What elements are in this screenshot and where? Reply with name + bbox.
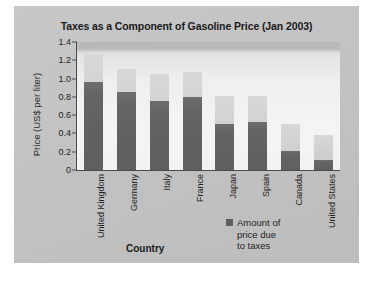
x-tick-label: Italy: [162, 174, 172, 248]
bar-segment-taxes: [281, 151, 300, 170]
x-tick-label: Canada: [294, 174, 304, 248]
x-tick-label: United Kingdom: [96, 174, 106, 248]
y-tick-label: 0.6: [43, 110, 71, 120]
y-tick-label: 1.2: [43, 55, 71, 65]
bar-segment-taxes: [183, 97, 202, 170]
chart-title: Taxes as a Component of Gasoline Price (…: [14, 20, 359, 32]
y-tick-label: 0.4: [43, 128, 71, 138]
bar-segment-taxes: [314, 160, 333, 170]
y-axis-title: Price (US$ per liter): [31, 45, 42, 185]
y-tick-label: 0.8: [43, 92, 71, 102]
legend-swatch-taxes: [226, 219, 233, 226]
legend-label-taxes: Amount of price due to taxes: [237, 217, 280, 252]
y-tick-label: 1.0: [43, 74, 71, 84]
x-tick-label: Germany: [129, 174, 139, 248]
chart-figure-panel: Taxes as a Component of Gasoline Price (…: [14, 6, 359, 263]
bar-segment-taxes: [150, 101, 169, 170]
bar-segment-taxes: [117, 92, 136, 170]
y-tick-label: 0.2: [43, 147, 71, 157]
bar-segment-taxes: [84, 82, 103, 170]
x-axis-title: Country: [126, 243, 164, 254]
y-tick-label: 1.4: [43, 37, 71, 47]
y-tick-label: 0: [43, 165, 71, 175]
bars-layer: [77, 42, 340, 170]
bar-segment-taxes: [248, 122, 267, 170]
plot-area: 00.20.40.60.81.01.21.4: [76, 42, 340, 171]
x-tick-label: United States: [327, 174, 337, 248]
bar-segment-taxes: [215, 124, 234, 170]
chart-legend: Amount of price due to taxes: [226, 217, 280, 252]
x-tick-label: France: [195, 174, 205, 248]
